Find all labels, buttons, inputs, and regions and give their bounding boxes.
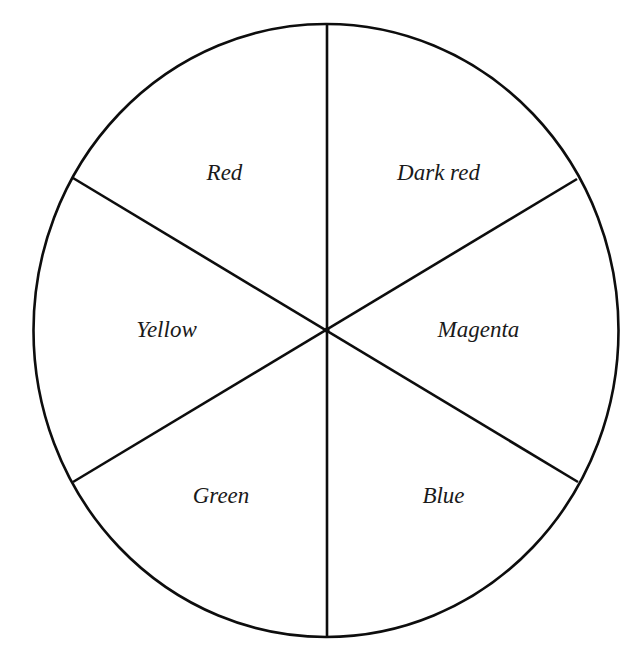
center-point: [324, 327, 329, 332]
segment-label-magenta: Magenta: [437, 317, 520, 342]
segment-label-green: Green: [193, 483, 250, 508]
segment-label-dark-red: Dark red: [396, 160, 480, 185]
segment-label-red: Red: [206, 160, 243, 185]
segment-label-blue: Blue: [422, 483, 464, 508]
color-wheel-diagram: Red Dark red Magenta Blue Green Yellow: [0, 0, 635, 671]
segment-label-yellow: Yellow: [136, 317, 197, 342]
